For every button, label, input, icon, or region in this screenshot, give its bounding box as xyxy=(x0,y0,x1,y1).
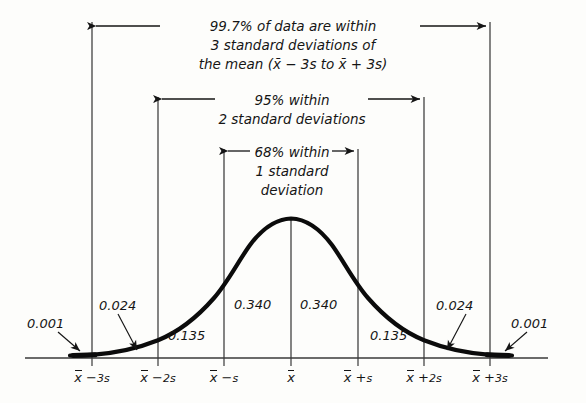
bracket-caption-three-sd-line1: 99.7% of data are within xyxy=(171,17,415,36)
tick-label-minus-2s-op: − xyxy=(152,370,163,385)
x-bar-glyph: x xyxy=(472,370,480,387)
bracket-caption-one-sd-line2: 1 standard xyxy=(251,162,333,181)
bracket-caption-one-sd-line3: deviation xyxy=(251,181,333,200)
tick-label-minus-3s-mult: 3s xyxy=(97,372,110,385)
tick-label-plus-3s-mult: 3s xyxy=(495,372,508,385)
leader-right-tail-outer xyxy=(505,332,527,351)
tick-label-plus-1s-op: + xyxy=(356,370,367,385)
leader-right-tail-2to3 xyxy=(447,314,466,350)
tick-label-minus-1s-mult: s xyxy=(233,372,239,385)
proportion-right-1to2: 0.135 xyxy=(370,328,407,345)
bracket-caption-three-sd: 99.7% of data are within 3 standard devi… xyxy=(171,17,415,74)
axis-ticks xyxy=(92,358,490,366)
leader-left-tail-2to3 xyxy=(118,314,137,350)
proportion-left-0to1: 0.340 xyxy=(234,297,271,314)
proportion-right-0to1: 0.340 xyxy=(300,297,337,314)
bracket-caption-one-sd-line1: 68% within xyxy=(251,143,333,162)
bracket-caption-three-sd-line2: 3 standard deviations of xyxy=(171,36,415,55)
proportion-right-tail-outer: 0.001 xyxy=(511,316,548,333)
bracket-caption-three-sd-line3: the mean (x̄ − 3s to x̄ + 3s) xyxy=(171,55,415,74)
empirical-rule-figure: 99.7% of data are within 3 standard devi… xyxy=(0,0,586,403)
x-bar-glyph: x xyxy=(210,370,218,387)
x-bar-glyph: x xyxy=(344,370,352,387)
bracket-caption-one-sd: 68% within 1 standard deviation xyxy=(251,143,333,200)
proportion-left-tail-outer: 0.001 xyxy=(27,316,64,333)
tick-label-plus-2s-mult: 2s xyxy=(429,372,442,385)
tick-label-plus-3s-op: + xyxy=(484,370,495,385)
proportion-left-tail-2to3: 0.024 xyxy=(99,298,136,315)
tick-label-plus-3s: x +3s xyxy=(450,370,530,387)
tick-label-minus-1s-op: − xyxy=(222,370,233,385)
proportion-left-1to2: 0.135 xyxy=(168,328,205,345)
tail-cap-left xyxy=(73,355,95,356)
callout-leaders xyxy=(58,314,527,351)
proportion-right-tail-2to3: 0.024 xyxy=(436,298,473,315)
tick-label-minus-2s-mult: 2s xyxy=(163,372,176,385)
bracket-caption-two-sd-line2: 2 standard deviations xyxy=(216,110,368,129)
tail-cap-right xyxy=(487,355,509,356)
bracket-caption-two-sd: 95% within 2 standard deviations xyxy=(216,91,368,129)
x-bar-glyph: x xyxy=(287,370,295,387)
tick-label-minus-3s-op: − xyxy=(86,370,97,385)
x-bar-glyph: x xyxy=(74,370,82,387)
bracket-caption-two-sd-line1: 95% within xyxy=(216,91,368,110)
x-bar-glyph: x xyxy=(406,370,414,387)
tick-label-plus-1s-mult: s xyxy=(367,372,373,385)
x-bar-glyph: x xyxy=(140,370,148,387)
tick-label-plus-2s-op: + xyxy=(418,370,429,385)
leader-left-tail-outer xyxy=(58,332,80,351)
